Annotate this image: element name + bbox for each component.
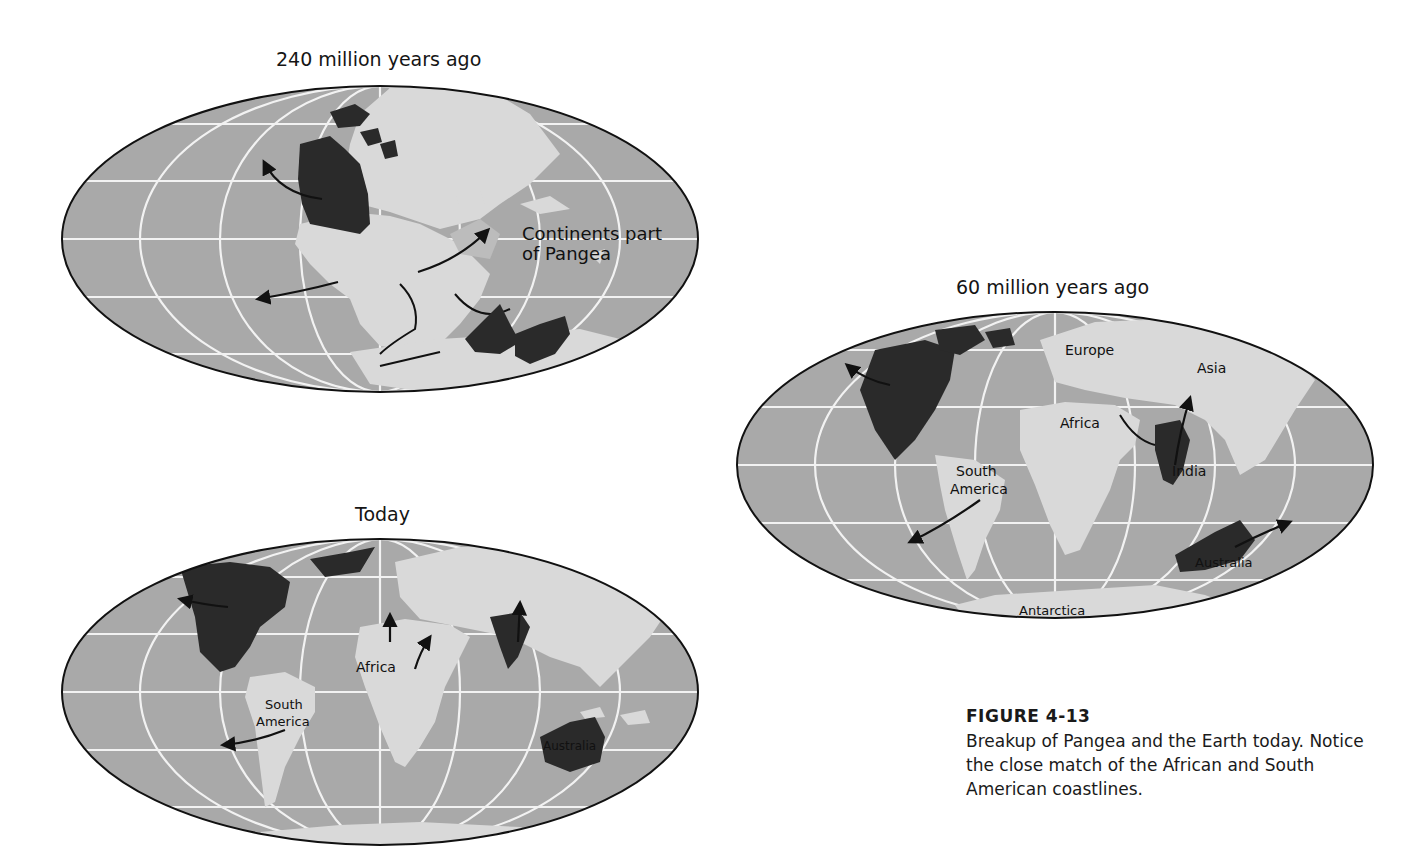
label-africa-today: Africa	[356, 659, 396, 675]
label-africa: Africa	[1060, 415, 1100, 431]
map-title-60mya: 60 million years ago	[956, 276, 1149, 298]
label-india: India	[1172, 463, 1206, 479]
label-south-america-today-2: America	[256, 714, 310, 729]
map-title-240mya: 240 million years ago	[276, 48, 481, 70]
map-60-million-years-ago: Europe Asia Africa India South America A…	[735, 310, 1375, 620]
label-south-america-today-1: South	[265, 697, 303, 712]
label-south-america-1: South	[956, 463, 997, 479]
annotation-line-2: of Pangea	[522, 243, 611, 264]
label-australia-today: Australia	[543, 739, 596, 753]
figure-number: FIGURE 4-13	[966, 706, 1386, 726]
label-australia: Australia	[1195, 555, 1253, 570]
annotation-line-1: Continents part	[522, 223, 662, 244]
map-title-today: Today	[355, 503, 410, 525]
figure-caption-text: Breakup of Pangea and the Earth today. N…	[966, 729, 1386, 801]
map-240-million-years-ago: Continents part of Pangea	[60, 84, 700, 394]
label-south-america-2: America	[950, 481, 1008, 497]
figure-caption: FIGURE 4-13 Breakup of Pangea and the Ea…	[966, 706, 1386, 801]
map-today: Africa South America Australia	[60, 537, 700, 847]
label-asia: Asia	[1197, 360, 1226, 376]
label-antarctica: Antarctica	[1019, 603, 1085, 618]
label-europe: Europe	[1065, 342, 1114, 358]
